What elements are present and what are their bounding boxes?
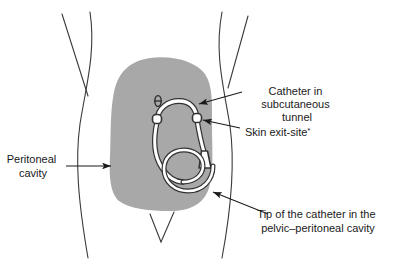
label-peritoneal-cavity-line-1: Peritoneal [7,153,57,165]
label-skin-exit-site: Skin exit-site* [245,126,310,138]
label-catheter-tunnel: Catheter in subcutaneous tunnel [261,85,333,123]
label-catheter-tunnel-line-3: tunnel [282,111,312,123]
label-peritoneal-cavity-line-2: cavity [19,167,48,179]
label-catheter-tip: Tip of the catheter in the pelvic–perito… [257,208,378,234]
groin-crease [150,212,174,242]
label-catheter-tip-line-2: pelvic–peritoneal cavity [261,222,375,234]
right-torso-contour [219,12,232,258]
label-catheter-tunnel-line-2: subcutaneous [261,98,330,110]
label-catheter-tip-line-1: Tip of the catheter in the [257,208,375,220]
left-torso-contour [78,12,92,258]
label-peritoneal-cavity: Peritoneal cavity [7,153,60,179]
catheter-superficial-cuff [193,114,202,123]
catheter-deep-cuff [153,115,162,124]
label-skin-exit-site-text: Skin exit-site [245,126,307,138]
label-catheter-tunnel-line-1: Catheter in [269,85,323,97]
diagram-canvas: Catheter in subcutaneous tunnel Skin exi… [0,0,396,267]
label-skin-exit-site-asterisk: * [307,126,310,135]
right-arm-line [228,16,248,88]
figure-container: Catheter in subcutaneous tunnel Skin exi… [0,0,396,267]
left-arm-line [62,14,88,96]
